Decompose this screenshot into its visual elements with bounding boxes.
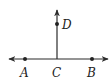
geometry-diagram: A C B D (0, 0, 111, 83)
label-d: D (61, 18, 72, 32)
point-a (23, 57, 27, 61)
point-d (55, 22, 59, 26)
point-b (90, 57, 94, 61)
label-b: B (86, 66, 96, 80)
label-c: C (52, 66, 61, 80)
label-a: A (19, 66, 29, 80)
